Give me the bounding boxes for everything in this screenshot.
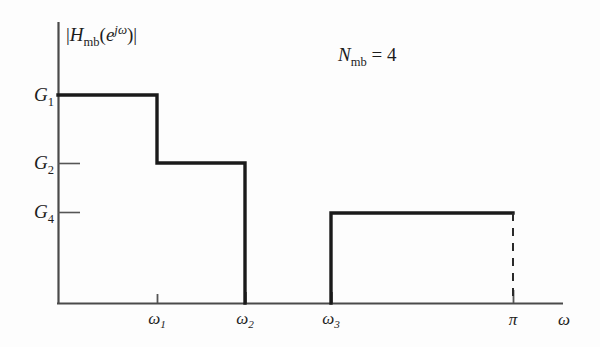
- annotation-n-value: = 4: [371, 44, 396, 65]
- y-axis-label-bar-close: |: [133, 24, 137, 45]
- y-tick-label-g1: G1: [14, 85, 54, 108]
- x-tick-label-omega1-subscript: 1: [160, 318, 166, 330]
- y-tick-label-g2-symbol: G: [34, 152, 48, 173]
- y-axis-label-h: H: [70, 24, 84, 45]
- magnitude-response-curve: [58, 95, 245, 303]
- y-tick-label-g4-subscript: 4: [48, 212, 54, 226]
- x-tick-label-omega3-symbol: ω: [322, 309, 334, 328]
- y-tick-label-g4-symbol: G: [34, 201, 48, 222]
- annotation-number-of-bands: Nmb = 4: [338, 45, 396, 68]
- x-tick-label-omega1-symbol: ω: [148, 309, 160, 328]
- y-tick-label-g1-subscript: 1: [48, 95, 54, 109]
- x-axis-label: ω: [558, 311, 570, 328]
- y-tick-label-g2-subscript: 2: [48, 163, 54, 177]
- x-tick-label-omega2-subscript: 2: [248, 318, 254, 330]
- y-tick-label-g4: G4: [14, 202, 54, 225]
- y-tick-label-g1-symbol: G: [34, 84, 48, 105]
- y-tick-label-g2: G2: [14, 153, 54, 176]
- x-tick-label-pi: π: [492, 311, 534, 328]
- plot-canvas: [0, 0, 600, 347]
- y-axis-label-e-exponent: jω: [114, 22, 127, 37]
- magnitude-response-band4: [331, 213, 513, 303]
- x-tick-label-omega3-subscript: 3: [334, 318, 340, 330]
- annotation-n-symbol: N: [338, 44, 351, 65]
- x-tick-label-pi-symbol: π: [509, 310, 518, 329]
- y-axis-label: |Hmb(ejω)|: [66, 24, 137, 49]
- x-tick-label-omega2-symbol: ω: [236, 309, 248, 328]
- annotation-n-subscript: mb: [351, 55, 367, 69]
- x-tick-label-omega3: ω3: [310, 310, 352, 331]
- multiband-filter-magnitude-figure: |Hmb(ejω)| Nmb = 4 G1 G2 G4 ω1 ω2 ω3 π ω: [0, 0, 600, 347]
- x-tick-label-omega2: ω2: [224, 310, 266, 331]
- y-axis-label-h-subscript: mb: [84, 35, 100, 49]
- x-tick-label-omega1: ω1: [136, 310, 178, 331]
